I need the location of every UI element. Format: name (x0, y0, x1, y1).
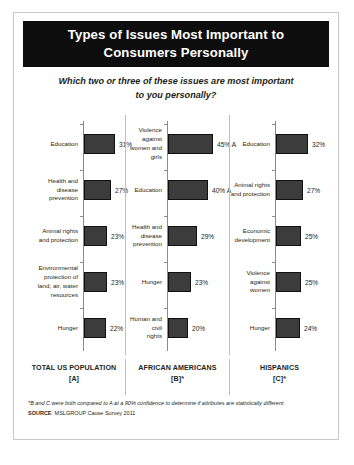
bar (276, 272, 301, 292)
bar-value-label: 25% (305, 233, 318, 240)
bar-value-label: 25% (305, 279, 318, 286)
bar-row: Animal rights and protection 27% (230, 170, 329, 210)
bar (276, 318, 300, 338)
bar-row: Health and disease prevention 29% (126, 216, 229, 256)
bar-row: Economic development 25% (230, 216, 329, 256)
category-label: Hunger (23, 324, 78, 333)
bar (168, 272, 191, 292)
bar-row: Education 40% A (126, 170, 229, 210)
category-label: Environmental protection of land, air, w… (23, 264, 78, 300)
axis-tick (272, 216, 275, 217)
category-label: Education (126, 186, 162, 195)
bar-value-label: 24% (304, 325, 317, 332)
bar (84, 180, 111, 200)
bar (84, 226, 107, 246)
title-banner: Types of Issues Most Important to Consum… (23, 21, 329, 67)
bar-rows: Education 32% Animal rights and protecti… (230, 121, 329, 351)
bar-row: Hunger 24% (230, 308, 329, 348)
bar-row: Environmental protection of land, air, w… (23, 262, 125, 302)
bar-value-label: 20% (192, 325, 205, 332)
axis-tick (164, 216, 167, 217)
chart-panel-african-americans: Violence against women and girls 45% A E… (125, 115, 229, 355)
bar-row: Human and civil rights 20% (126, 308, 229, 348)
bar-group: 22% (84, 318, 123, 338)
bar-group: 23% (84, 272, 124, 292)
category-label: Education (230, 140, 270, 149)
bar-group: 23% (84, 226, 124, 246)
footnote-source: SOURCE: MSLGROUP Cause Survey 2011 (28, 409, 320, 418)
category-label: Education (23, 140, 78, 149)
panel-footer-african-americans: AFRICAN AMERICANS [B]* (125, 359, 229, 395)
category-label: Economic development (230, 227, 270, 245)
bar-value-label: 32% (312, 141, 325, 148)
bar-row: Hunger 22% (23, 308, 125, 348)
bar (168, 318, 188, 338)
category-label: Violence against women (230, 269, 270, 296)
bar-group: 20% (168, 318, 205, 338)
panel-footer-total-us-population: TOTAL US POPULATION [A] (23, 359, 125, 395)
axis-tick (164, 262, 167, 263)
bar-row: Violence against women 25% (230, 262, 329, 302)
bar-value-label: 27% (307, 187, 320, 194)
bar-row: Violence against women and girls 45% A (126, 124, 229, 164)
category-label: Hunger (126, 278, 162, 287)
bar (84, 134, 115, 154)
bar-value-label: 23% (195, 279, 208, 286)
bar-group: 27% (276, 180, 320, 200)
slide-container: Types of Issues Most Important to Consum… (13, 12, 339, 440)
bar-group: 32% (276, 134, 325, 154)
bar-value-label: 29% (201, 233, 214, 240)
bar-group: 25% (276, 226, 318, 246)
bar-row: Education 31% (23, 124, 125, 164)
axis-tick (80, 308, 83, 309)
bar-group: 29% (168, 226, 214, 246)
bar-value-label: 22% (110, 325, 123, 332)
category-label: Animal rights and protection (23, 227, 78, 245)
footnote: *B and C were both compared to A at a 90… (28, 399, 320, 418)
bar (168, 180, 208, 200)
bar (276, 226, 301, 246)
chart-panel-total-us-population: Education 31% Health and disease prevent… (23, 115, 125, 355)
category-label: Health and disease prevention (126, 223, 162, 250)
bar-group: 45% A (168, 134, 236, 154)
subtitle-question: Which two or three of these issues are m… (30, 75, 322, 102)
bar-group: 40% A (168, 180, 231, 200)
bar-row: Education 32% (230, 124, 329, 164)
bar-value-label: 23% (111, 233, 124, 240)
footnote-significance-note: *B and C were both compared to A at a 90… (28, 399, 320, 408)
axis-tick (272, 262, 275, 263)
bar-rows: Education 31% Health and disease prevent… (23, 121, 125, 351)
axis-tick (272, 124, 275, 125)
bar-group: 25% (276, 272, 318, 292)
axis-tick (272, 308, 275, 309)
category-label: Hunger (230, 324, 270, 333)
category-label: Human and civil rights (126, 315, 162, 342)
bar-row: Hunger 23% (126, 262, 229, 302)
category-label: Animal rights and protection (230, 181, 270, 199)
bar (168, 226, 197, 246)
panel-footers: TOTAL US POPULATION [A] AFRICAN AMERICAN… (23, 359, 329, 395)
panel-footer-hispanics: HISPANICS [C]* (229, 359, 329, 395)
bar-group: 23% (168, 272, 208, 292)
chart-panel-hispanics: Education 32% Animal rights and protecti… (229, 115, 329, 355)
axis-tick (80, 216, 83, 217)
axis-tick (80, 124, 83, 125)
category-label: Health and disease prevention (23, 177, 78, 204)
bar-row: Animal rights and protection 23% (23, 216, 125, 256)
footnote-source-text: : MSLGROUP Cause Survey 2011 (52, 410, 136, 416)
axis-tick (164, 124, 167, 125)
bar (84, 272, 107, 292)
chart-area: Education 31% Health and disease prevent… (23, 115, 329, 355)
bar (84, 318, 106, 338)
bar-group: 24% (276, 318, 317, 338)
axis-tick (164, 170, 167, 171)
axis-tick (164, 308, 167, 309)
bar (276, 134, 308, 154)
axis-tick (272, 170, 275, 171)
footnote-source-label: SOURCE (28, 410, 52, 416)
axis-tick (80, 170, 83, 171)
bar-value-label: 23% (111, 279, 124, 286)
bar-row: Health and disease prevention 27% (23, 170, 125, 210)
bar (276, 180, 303, 200)
bar (168, 134, 213, 154)
